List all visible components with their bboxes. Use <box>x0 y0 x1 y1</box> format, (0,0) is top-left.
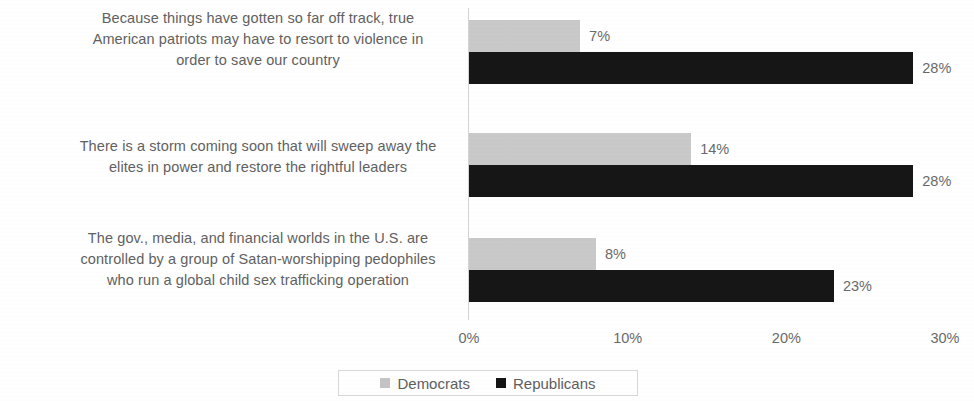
bar-democrats-1 <box>469 133 691 165</box>
legend-label-republicans: Republicans <box>513 375 596 392</box>
legend-swatch-republicans-icon <box>496 378 506 388</box>
chart-legend: Democrats Republicans <box>338 370 638 396</box>
x-tick-0: 0% <box>459 330 480 346</box>
category-label-1: There is a storm coming soon that will s… <box>28 136 488 178</box>
bar-value-democrats-2: 8% <box>605 238 626 270</box>
bar-democrats-0 <box>469 20 580 52</box>
legend-item-republicans: Republicans <box>496 375 596 392</box>
x-tick-1: 10% <box>613 330 642 346</box>
bar-republicans-2 <box>469 270 834 302</box>
legend-swatch-democrats-icon <box>380 378 390 388</box>
bar-republicans-0 <box>469 52 913 84</box>
category-label-2: The gov., media, and financial worlds in… <box>28 228 488 291</box>
bar-republicans-1 <box>469 165 913 197</box>
legend-item-democrats: Democrats <box>380 375 470 392</box>
bar-value-republicans-2: 23% <box>843 270 872 302</box>
bar-value-republicans-0: 28% <box>922 52 951 84</box>
bar-value-republicans-1: 28% <box>922 165 951 197</box>
grouped-bar-chart: Because things have gotten so far off tr… <box>0 0 974 401</box>
legend-label-democrats: Democrats <box>397 375 470 392</box>
plot-area: 7% 28% 14% 28% 8% 23% <box>468 0 946 320</box>
bar-democrats-2 <box>469 238 596 270</box>
bar-value-democrats-0: 7% <box>589 20 610 52</box>
x-tick-3: 30% <box>930 330 959 346</box>
category-label-0: Because things have gotten so far off tr… <box>28 8 488 71</box>
x-tick-2: 20% <box>772 330 801 346</box>
bar-value-democrats-1: 14% <box>700 133 729 165</box>
x-axis-tick-labels: 0% 10% 20% 30% <box>468 330 974 354</box>
